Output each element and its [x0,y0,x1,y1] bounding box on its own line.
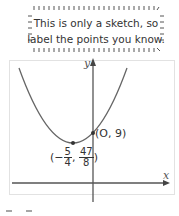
graph-frame [10,61,175,195]
vertex-x-fraction: 54 [64,147,72,168]
vertex-point [71,141,75,145]
parabola-graph [0,0,179,216]
y-intercept-label: (O, 9) [95,127,126,140]
y-axis-arrow-icon [90,58,96,66]
vertex-y-fraction: 478 [79,147,94,168]
vertex-separator: , [72,151,76,164]
x-axis-label: x [163,169,169,182]
vertex-close-paren: ) [94,151,98,164]
vertex-label: (−54, 478) [50,147,98,168]
y-axis-label: y [84,57,90,70]
vertex-x-sign: − [54,151,63,164]
